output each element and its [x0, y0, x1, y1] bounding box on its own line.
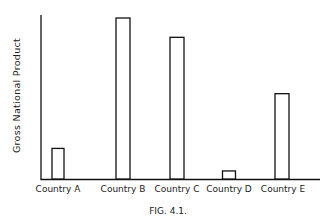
bar-country-d [223, 171, 236, 179]
bar-country-e [275, 94, 289, 179]
x-tick-label: Country E [261, 184, 305, 194]
bar-country-c [170, 37, 184, 179]
y-axis-label: Gross National Product [11, 36, 22, 156]
figure-caption: FIG. 4.1. [0, 206, 336, 216]
x-tick-label: Country B [101, 184, 146, 194]
bar-country-b [116, 18, 130, 179]
x-tick-label: Country A [36, 184, 81, 194]
x-tick-label: Country C [155, 184, 200, 194]
bar-country-a [52, 148, 64, 179]
x-tick-label: Country D [206, 184, 252, 194]
bar-chart: Gross National Product Country A Country… [0, 0, 336, 222]
bars [52, 18, 289, 179]
